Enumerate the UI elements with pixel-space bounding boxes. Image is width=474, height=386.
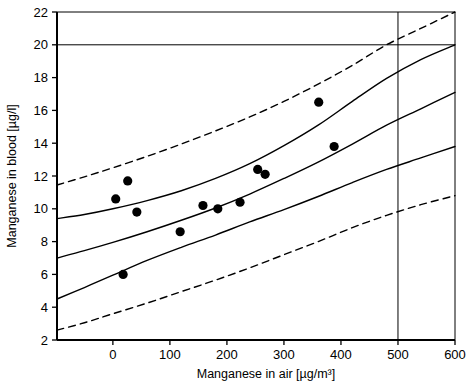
y-axis-title: Manganese in blood [µg/l]	[5, 104, 19, 247]
data-point	[314, 98, 323, 107]
data-point	[132, 207, 141, 216]
data-point	[330, 142, 339, 151]
data-point	[198, 201, 207, 210]
x-tick-label: 500	[387, 347, 409, 362]
y-tick-label: 22	[34, 5, 48, 20]
y-tick-label: 20	[34, 37, 48, 52]
y-tick-label: 18	[34, 70, 48, 85]
data-point	[111, 194, 120, 203]
data-point	[235, 198, 244, 207]
y-tick-label: 8	[41, 234, 48, 249]
data-point	[176, 227, 185, 236]
scatter-plot: 2468101214161820220100200300400500600 Ma…	[0, 0, 474, 386]
x-tick-label: 0	[109, 347, 116, 362]
y-tick-label: 4	[41, 300, 48, 315]
y-tick-label: 6	[41, 267, 48, 282]
x-tick-label: 600	[444, 347, 466, 362]
y-tick-label: 2	[41, 333, 48, 348]
y-tick-label: 10	[34, 201, 48, 216]
data-point	[119, 270, 128, 279]
data-point	[261, 170, 270, 179]
x-tick-label: 400	[330, 347, 352, 362]
data-point	[213, 204, 222, 213]
x-axis-title: Manganese in air [µg/m³]	[197, 367, 336, 381]
y-tick-label: 14	[34, 136, 48, 151]
x-tick-label: 300	[273, 347, 295, 362]
x-tick-label: 200	[216, 347, 238, 362]
plot-background	[0, 0, 474, 386]
chart-figure: 2468101214161820220100200300400500600 Ma…	[0, 0, 474, 386]
y-tick-label: 16	[34, 103, 48, 118]
y-tick-label: 12	[34, 169, 48, 184]
data-point	[123, 176, 132, 185]
x-tick-label: 100	[159, 347, 181, 362]
